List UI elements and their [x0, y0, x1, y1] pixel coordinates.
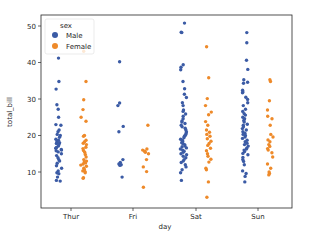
data-point: [242, 160, 245, 163]
data-point: [60, 152, 63, 155]
data-point: [205, 45, 208, 48]
data-point: [54, 87, 57, 90]
y-axis-label: total_bill: [6, 97, 14, 127]
data-point: [117, 130, 120, 133]
data-point: [84, 171, 87, 174]
data-point: [206, 144, 209, 147]
data-point: [57, 108, 60, 111]
data-point: [242, 82, 245, 85]
y-axis: 1020304050: [27, 23, 41, 177]
data-point: [58, 136, 61, 139]
data-point: [183, 21, 186, 24]
data-point: [241, 127, 244, 130]
data-point: [207, 76, 210, 79]
data-point: [180, 161, 183, 164]
data-point: [184, 165, 187, 168]
data-point: [204, 104, 207, 107]
data-point: [269, 167, 272, 170]
data-point: [207, 160, 210, 163]
strip-plot-chart: 1020304050 ThurFriSatSun total_bill day …: [0, 0, 309, 242]
data-point: [55, 164, 58, 167]
data-point: [205, 149, 208, 152]
data-point: [244, 172, 247, 175]
data-point: [145, 170, 148, 173]
data-point: [241, 152, 244, 155]
data-point: [271, 155, 274, 158]
legend-title: sex: [60, 22, 72, 30]
data-point: [245, 31, 248, 34]
data-point: [60, 148, 63, 151]
data-point: [245, 128, 248, 131]
data-point: [180, 31, 183, 34]
data-point: [269, 80, 272, 83]
x-tick-label-fri: Fri: [129, 213, 137, 221]
data-point: [243, 143, 246, 146]
data-point: [116, 104, 119, 107]
data-point: [55, 103, 58, 106]
data-point: [241, 91, 244, 94]
data-point: [84, 80, 87, 83]
data-point: [55, 179, 58, 182]
data-point: [266, 162, 269, 165]
data-point: [205, 128, 208, 131]
data-point: [179, 68, 182, 71]
data-point: [181, 101, 184, 104]
data-point: [82, 98, 85, 101]
data-point: [144, 151, 147, 154]
data-point: [241, 137, 244, 140]
legend-marker-male-icon: [52, 32, 58, 38]
data-point: [206, 155, 209, 158]
data-point: [209, 158, 212, 161]
data-point: [118, 60, 121, 63]
data-point: [180, 168, 183, 171]
data-point: [81, 108, 84, 111]
data-point: [82, 135, 85, 138]
data-point: [207, 180, 210, 183]
data-point: [56, 133, 59, 136]
data-point: [242, 104, 245, 107]
data-point: [268, 99, 271, 102]
data-point: [57, 116, 60, 119]
data-point: [59, 124, 62, 127]
data-point: [84, 146, 87, 149]
data-point: [242, 78, 245, 81]
x-tick-label-thur: Thur: [62, 213, 79, 221]
data-point: [180, 179, 183, 182]
data-point: [54, 123, 57, 126]
data-point: [246, 123, 249, 126]
data-point: [204, 120, 207, 123]
data-point: [120, 175, 123, 178]
data-point: [181, 110, 184, 113]
data-point: [142, 165, 145, 168]
data-point: [270, 151, 273, 154]
data-point: [246, 153, 249, 156]
legend-label-male: Male: [66, 32, 83, 40]
data-point: [57, 172, 60, 175]
data-point: [205, 168, 208, 171]
data-point: [243, 120, 246, 123]
data-point: [271, 135, 274, 138]
data-point: [206, 137, 209, 140]
data-point: [84, 120, 87, 123]
data-point: [266, 108, 269, 111]
data-point: [206, 124, 209, 127]
y-tick-label: 30: [27, 96, 36, 104]
data-point: [81, 177, 84, 180]
y-tick-label: 10: [27, 169, 36, 177]
data-point: [245, 59, 248, 62]
y-tick-label: 20: [27, 132, 36, 140]
data-point: [79, 116, 82, 119]
data-point: [79, 163, 82, 166]
data-point: [56, 175, 59, 178]
data-point: [205, 196, 208, 199]
x-axis: ThurFriSatSun: [62, 208, 265, 221]
data-point: [180, 120, 183, 123]
data-point: [185, 96, 188, 99]
data-point: [269, 124, 272, 127]
data-point: [82, 142, 85, 145]
data-point: [266, 115, 269, 118]
data-point: [60, 167, 63, 170]
data-point: [268, 140, 271, 143]
x-tick-label-sun: Sun: [251, 213, 264, 221]
legend: sex Male Female: [45, 19, 94, 54]
